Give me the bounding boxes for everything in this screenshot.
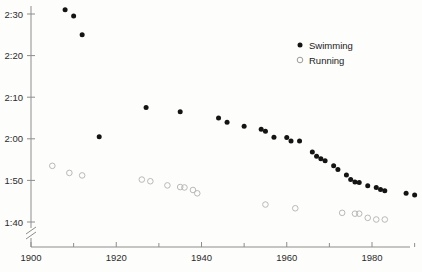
swimming-data-point [225, 120, 230, 125]
y-tick-label: 1:50 [5, 175, 24, 186]
y-tick-label: 1:40 [5, 217, 24, 228]
x-axis-ticks: 19001920194019601980 [20, 242, 414, 263]
running-data-point [339, 210, 345, 216]
swimming-data-point [335, 167, 340, 172]
x-tick-label: 1960 [276, 252, 297, 263]
swimming-data-point [314, 154, 319, 159]
swimming-data-point [80, 32, 85, 37]
legend-label-running: Running [309, 55, 344, 66]
swimming-data-point [310, 150, 315, 155]
swimming-data-point [263, 129, 268, 134]
swimming-data-point [344, 172, 349, 177]
swimming-data-point [365, 183, 370, 188]
swimming-data-point [178, 109, 183, 114]
legend-marker-swimming [298, 43, 303, 48]
y-tick-label: 2:30 [5, 9, 24, 20]
y-axis-ticks: 2:302:202:102:001:501:40 [5, 9, 36, 228]
chart-canvas: 2:302:202:102:001:501:40 190019201940196… [0, 0, 422, 272]
running-data-point [79, 173, 85, 179]
running-data-point [194, 191, 200, 197]
running-data-point [382, 217, 388, 223]
running-data-point [373, 217, 379, 223]
swimming-data-point [71, 14, 76, 19]
swimming-data-point [323, 158, 328, 163]
legend-marker-running [297, 57, 303, 63]
running-data-point [148, 178, 154, 184]
swimming-data-point [284, 135, 289, 140]
swimming-data-point [404, 191, 409, 196]
swimming-data-point [63, 7, 68, 12]
swimming-data-point [382, 188, 387, 193]
running-data-point [356, 211, 362, 217]
running-data-point [67, 170, 73, 176]
swimming-data-point [216, 116, 221, 121]
swimming-data-point [357, 180, 362, 185]
swimming-data-point [271, 135, 276, 140]
swimming-data-point [352, 180, 357, 185]
swimming-data-point [144, 105, 149, 110]
x-tick-label: 1980 [361, 252, 382, 263]
swimming-data-point [242, 124, 247, 129]
x-tick-label: 1900 [20, 252, 41, 263]
series-running-points [50, 163, 388, 222]
running-data-point [165, 183, 171, 189]
y-tick-label: 2:10 [5, 92, 24, 103]
chart-legend: SwimmingRunning [297, 40, 353, 66]
x-tick-label: 1920 [106, 252, 127, 263]
swimming-data-point [297, 138, 302, 143]
running-data-point [263, 202, 269, 208]
scatter-chart: 2:302:202:102:001:501:40 190019201940196… [0, 0, 422, 272]
swimming-data-point [374, 185, 379, 190]
swimming-data-point [289, 138, 294, 143]
running-data-point [292, 205, 298, 211]
swimming-data-point [348, 177, 353, 182]
y-tick-label: 2:20 [5, 50, 24, 61]
running-data-point [50, 163, 56, 169]
running-data-point [139, 177, 145, 183]
series-swimming-points [63, 7, 418, 197]
y-tick-label: 2:00 [5, 133, 24, 144]
legend-label-swimming: Swimming [309, 40, 353, 51]
x-tick-label: 1940 [191, 252, 212, 263]
swimming-data-point [97, 134, 102, 139]
swimming-data-point [412, 192, 417, 197]
swimming-data-point [331, 163, 336, 168]
swimming-data-point [378, 187, 383, 192]
running-data-point [365, 215, 371, 221]
swimming-data-point [259, 127, 264, 132]
swimming-data-point [318, 156, 323, 161]
